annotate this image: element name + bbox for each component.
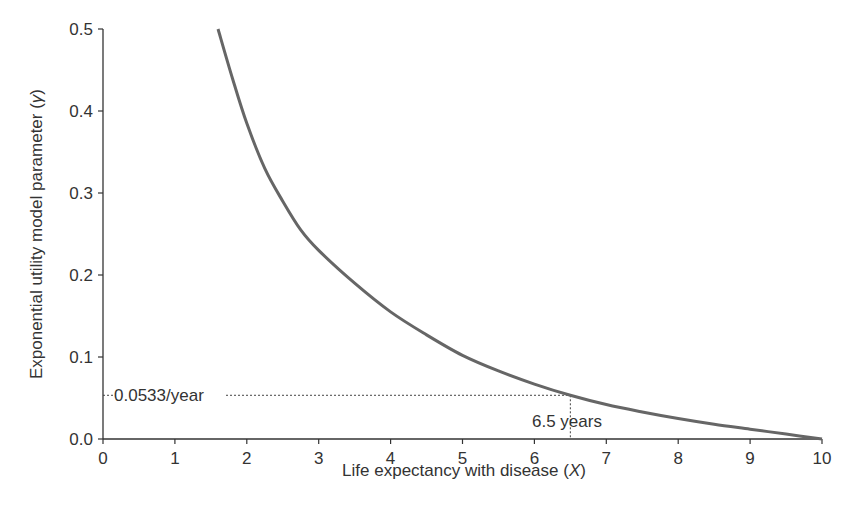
x-tick-label: 3: [314, 449, 323, 468]
x-tick-label: 9: [745, 449, 754, 468]
y-tick-label: 0.1: [69, 348, 93, 367]
x-tick-label: 2: [242, 449, 251, 468]
y-tick-label: 0.2: [69, 266, 93, 285]
y-tick-label: 0.4: [69, 102, 93, 121]
gamma-curve: [218, 29, 822, 439]
chart: 0123456789100.00.10.20.30.40.5 0.0533/ye…: [0, 0, 846, 519]
x-tick-label: 1: [170, 449, 179, 468]
x-axis-title: Life expectancy with disease (X): [342, 461, 586, 480]
y-axis-title: Exponential utility model parameter (γ): [27, 89, 46, 379]
x-tick-label: 10: [813, 449, 832, 468]
annotation-gamma-value: 0.0533/year: [114, 386, 204, 405]
annotation-life-expectancy: 6.5 years: [532, 412, 602, 431]
y-tick-label: 0.5: [69, 20, 93, 39]
x-tick-label: 0: [98, 449, 107, 468]
y-tick-label: 0.3: [69, 184, 93, 203]
x-tick-label: 7: [602, 449, 611, 468]
x-tick-label: 8: [673, 449, 682, 468]
y-tick-label: 0.0: [69, 430, 93, 449]
